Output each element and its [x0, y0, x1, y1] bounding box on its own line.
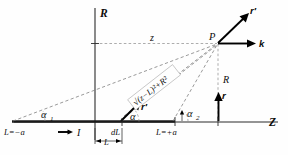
- z-distance-label: z: [149, 32, 154, 43]
- dimension-L-right-arrowhead: [116, 139, 121, 143]
- angle-alpha-label: α: [130, 111, 136, 122]
- point-p-label: P: [208, 31, 216, 42]
- current-arrow-head: [68, 130, 74, 135]
- figure-canvas: √(z−L)²+R² R Z P z R L=−a L=+a I dL L α …: [0, 0, 288, 155]
- angle-alpha1-subscript: 1: [50, 115, 54, 123]
- hypotenuse-label: √(z−L)²+R²: [131, 74, 170, 108]
- vector-k-arrowhead: [247, 39, 256, 47]
- vector-r-prime-dl-label: r′: [141, 101, 148, 112]
- angle-alpha2-label-group: α 2: [187, 108, 200, 122]
- vector-k-label: k: [259, 38, 265, 49]
- left-end-label: L=−a: [3, 127, 25, 137]
- angle-alpha2-label: α: [187, 108, 193, 119]
- vector-r-prime-shaft: [218, 17, 245, 43]
- hypotenuse-label-group: √(z−L)²+R²: [128, 65, 181, 110]
- dimension-L-label: L: [103, 137, 109, 147]
- vector-r-prime-label: r′: [250, 5, 257, 16]
- current-label: I: [76, 127, 81, 138]
- angle-alpha2-subscript: 2: [196, 114, 200, 122]
- angle-arc-alpha: [136, 111, 140, 122]
- right-end-label: L=+a: [155, 127, 177, 137]
- dimension-L-left-arrowhead: [96, 139, 101, 143]
- alpha2-pointer-arrowhead: [180, 110, 184, 115]
- R-distance-label: R: [222, 74, 229, 85]
- r-axis-label: R: [99, 7, 108, 19]
- angle-alpha1-label: α: [41, 109, 47, 120]
- ray-from-right-end: [173, 45, 217, 121]
- vector-diagram-svg: √(z−L)²+R² R Z P z R L=−a L=+a I dL L α …: [0, 0, 288, 155]
- dl-element-label: dL: [111, 127, 120, 137]
- vector-r-label: r: [222, 90, 227, 101]
- z-axis-label: Z: [268, 116, 276, 128]
